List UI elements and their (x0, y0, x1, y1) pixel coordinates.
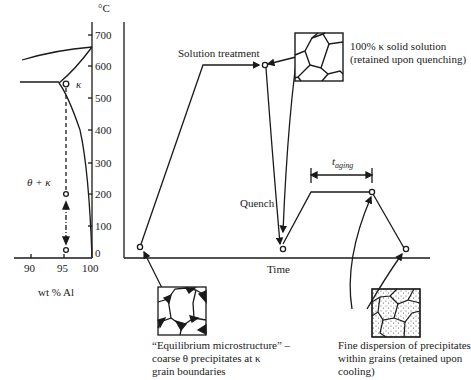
kappa-phase-label: κ (76, 78, 82, 90)
svg-text:600: 600 (95, 60, 112, 72)
composition-tick-labels: 90 95 100 (24, 262, 99, 274)
temperature-tick-labels: 700 600 500 400 300 200 100 0 (95, 29, 112, 259)
fine-dispersion-caption: Fine dispersion of precipitates within g… (338, 339, 471, 378)
equilibrium-caption: “Equilibrium microstructure” – coarse θ … (152, 339, 290, 378)
svg-text:100: 100 (82, 262, 99, 274)
fine-dispersion-microstructure (372, 289, 420, 337)
t-aging-label: taging (332, 155, 353, 170)
theta-kappa-phase-label: θ + κ (27, 176, 51, 188)
solid-solution-caption: 100% κ solid solution (retained upon que… (350, 40, 466, 66)
svg-text:400: 400 (95, 124, 112, 136)
time-axis-label: Time (267, 263, 290, 275)
solution-treatment-label: Solution treatment (178, 47, 260, 59)
composition-axis-label: wt % Al (38, 286, 74, 298)
quench-label: Quench (240, 197, 275, 209)
svg-text:700: 700 (95, 29, 112, 41)
svg-text:0: 0 (95, 247, 101, 259)
solid-solution-microstructure (295, 33, 343, 81)
phase-diagram (14, 22, 92, 258)
svg-text:300: 300 (95, 157, 112, 169)
temperature-unit: °C (98, 2, 110, 14)
equilibrium-microstructure (158, 287, 206, 335)
svg-text:100: 100 (95, 220, 112, 232)
svg-text:500: 500 (95, 92, 112, 104)
svg-text:95: 95 (57, 262, 69, 274)
svg-text:200: 200 (95, 188, 112, 200)
svg-text:90: 90 (24, 262, 36, 274)
